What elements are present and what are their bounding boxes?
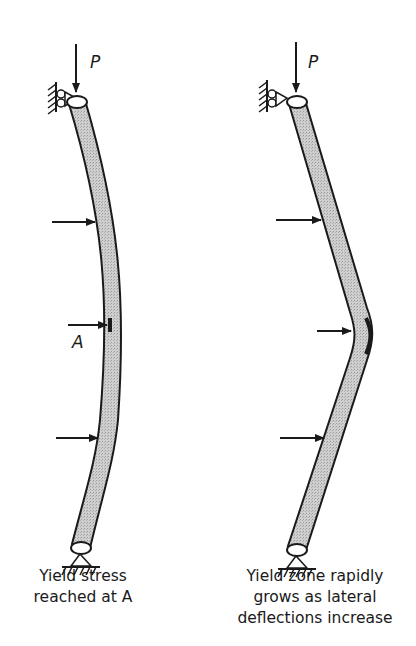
column-buckling-diagram [0, 0, 416, 646]
right-caption-line-3: deflections increase [220, 608, 410, 629]
right-caption-line-2: grows as lateral [220, 587, 410, 608]
right-caption-line-1: Yield zone rapidly [220, 566, 410, 587]
load-label-right: P [308, 52, 318, 72]
right-column-diagram [259, 42, 372, 577]
roller-support-icon [259, 80, 287, 112]
load-label-left: P [90, 52, 100, 72]
kinked-column [288, 100, 372, 550]
right-caption: Yield zone rapidly grows as lateral defl… [220, 566, 410, 629]
point-a-label: A [72, 332, 84, 352]
left-column-diagram [48, 44, 121, 575]
left-caption-line-2: reached at A [8, 587, 158, 608]
left-caption: Yield stress reached at A [8, 566, 158, 608]
yield-point-marker [108, 318, 112, 332]
left-caption-line-1: Yield stress [8, 566, 158, 587]
